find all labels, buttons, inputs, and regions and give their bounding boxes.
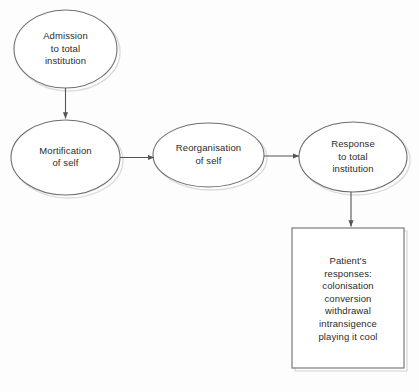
- patient-responses-box: [292, 228, 404, 368]
- diagram-canvas: Admission to total institution Mortifica…: [0, 0, 419, 392]
- admission-ellipse: [14, 10, 117, 88]
- mortification-ellipse: [11, 120, 120, 195]
- diagram-graphics: [0, 0, 419, 392]
- reorganisation-ellipse: [153, 123, 264, 187]
- node-outline-layer: [11, 10, 407, 368]
- response-ellipse: [299, 122, 407, 192]
